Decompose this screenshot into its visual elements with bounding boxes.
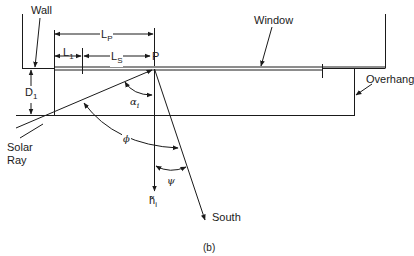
l1-sub: 1 <box>69 52 73 61</box>
label-ray-line2: Ray <box>7 154 33 167</box>
label-psi: ψ <box>167 175 175 187</box>
right-wall <box>322 14 386 69</box>
label-ls: LS <box>110 50 123 67</box>
alpha-angle-arc <box>125 82 152 95</box>
window-line <box>54 48 385 78</box>
solar-ray-leader <box>20 124 43 138</box>
window-leader <box>261 27 272 66</box>
label-south: South <box>212 211 241 223</box>
label-window: Window <box>254 14 293 26</box>
label-wall: Wall <box>31 4 52 16</box>
label-h-vector: h̃i <box>149 194 157 211</box>
h-sub: i <box>155 200 157 209</box>
label-point-p: P <box>152 50 159 62</box>
overhang-outline <box>16 68 355 116</box>
alpha-sub: i <box>137 101 140 110</box>
label-l1: L1 <box>63 46 74 63</box>
alpha-main: α <box>130 96 137 107</box>
label-alpha: αi <box>130 96 139 112</box>
label-d1: D1 <box>25 86 37 103</box>
label-lp: LP <box>100 28 113 45</box>
overhang-leader <box>356 84 372 95</box>
ls-sub: S <box>117 56 122 65</box>
d1-sub: 1 <box>33 92 37 101</box>
label-overhang: Overhang <box>366 73 414 85</box>
wall-leader <box>35 18 40 67</box>
psi-angle-arc <box>156 166 186 170</box>
label-phi: ϕ <box>122 133 131 145</box>
south-vector <box>155 69 206 220</box>
caption: (b) <box>203 242 215 254</box>
d1-main: D <box>25 86 33 98</box>
lp-sub: P <box>107 34 112 43</box>
label-solar-ray: Solar Ray <box>7 141 33 167</box>
label-solar-line1: Solar <box>7 141 33 154</box>
